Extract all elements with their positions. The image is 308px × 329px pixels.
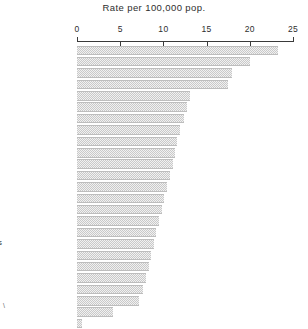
- category-label-text: Finland: [0, 203, 74, 213]
- category-label: Sweden: [0, 260, 74, 270]
- bar-track: [77, 194, 293, 202]
- category-label: Germany, F.R.: [0, 112, 74, 122]
- bar-track: [77, 239, 293, 247]
- category-label-text: New Zealand: [0, 215, 74, 225]
- category-label: Canada: [0, 181, 74, 191]
- bar-track: [77, 251, 293, 259]
- x-tick-0: [77, 37, 78, 42]
- bar: [77, 216, 159, 226]
- x-tick-label-25: 25: [288, 24, 298, 34]
- chart-row: Australia: [0, 283, 308, 294]
- bar-track: [77, 262, 293, 270]
- chart-row: Austria: [0, 67, 308, 78]
- chart-row: U.S., White: [0, 226, 308, 237]
- chart-row: Italy: [0, 101, 308, 112]
- bar-track: [77, 46, 293, 54]
- bar-track: [77, 125, 293, 133]
- bar: [77, 194, 164, 204]
- bar: [77, 91, 190, 101]
- bar: [77, 182, 167, 192]
- chart-row: Germany, F.R.: [0, 112, 308, 123]
- chart-row: Israel: [0, 317, 308, 328]
- category-label-text: Italy: [0, 101, 74, 111]
- bar-track: [77, 137, 293, 145]
- bar: [77, 80, 228, 90]
- bar-track: [77, 80, 293, 88]
- bar: [77, 239, 154, 249]
- bar-track: [77, 114, 293, 122]
- bar: [77, 251, 151, 261]
- chart-row: England & Wales: [0, 238, 308, 249]
- bar-track: [77, 102, 293, 110]
- bar: [77, 296, 139, 306]
- bar-track: [77, 182, 293, 190]
- chart-row: Denmark: [0, 78, 308, 89]
- category-label: Denmark: [0, 78, 74, 88]
- category-label: Netherlands: [0, 249, 74, 259]
- chart-row: Ireland: [0, 306, 308, 317]
- category-label-text: Ireland: [0, 306, 74, 316]
- chart-row: Netherlands: [0, 249, 308, 260]
- category-label-text: Austria: [0, 67, 74, 77]
- bar-track: [77, 216, 293, 224]
- chart-row: Canada: [0, 181, 308, 192]
- x-tick-label-20: 20: [245, 24, 255, 34]
- bar-track: [77, 159, 293, 167]
- category-label-text: South Africa: [0, 124, 74, 134]
- category-label-text: Germany, F.R.: [0, 112, 74, 122]
- bar: [77, 102, 187, 112]
- bar: [77, 148, 175, 158]
- x-tick-label-5: 5: [118, 24, 123, 34]
- category-label: Finland: [0, 203, 74, 213]
- bar-track: [77, 68, 293, 76]
- category-label: Chile: [0, 55, 74, 65]
- x-axis-line: [77, 41, 293, 42]
- category-label: New Zealand: [0, 215, 74, 225]
- category-label: U.S., White: [0, 226, 74, 236]
- category-label-text: U.S., White: [0, 226, 74, 236]
- category-label: Switzerland: [0, 135, 74, 145]
- category-label: France: [0, 169, 74, 179]
- category-label-text: Denmark: [0, 78, 74, 88]
- category-label-text: Sweden: [0, 260, 74, 270]
- corner-mark: \: [3, 302, 5, 309]
- x-tick-label-0: 0: [74, 24, 79, 34]
- category-label-text: Scotland: [0, 192, 74, 202]
- chart-row: Portugal: [0, 147, 308, 158]
- bar-track: [77, 319, 293, 327]
- chart-row: New Zealand: [0, 215, 308, 226]
- bar: [77, 57, 250, 67]
- bar-track: [77, 148, 293, 156]
- chart-rows: U.S., NonwhiteChileAustriaDenmarkJapanIt…: [0, 44, 308, 329]
- x-tick-25: [293, 37, 294, 42]
- category-label: Italy: [0, 101, 74, 111]
- bar: [77, 205, 162, 215]
- category-label-text: Israel: [0, 317, 74, 327]
- category-label-text: Norway: [0, 272, 74, 282]
- bar-track: [77, 307, 293, 315]
- bar-track: [77, 57, 293, 65]
- category-label-text: Chile: [0, 55, 74, 65]
- category-label-text: Portugal: [0, 147, 74, 157]
- bar: [77, 68, 232, 78]
- bar: [77, 228, 156, 238]
- chart-row: South Africa: [0, 124, 308, 135]
- bar-track: [77, 228, 293, 236]
- bar: [77, 159, 173, 169]
- category-label: Austria: [0, 67, 74, 77]
- bar: [77, 307, 113, 317]
- category-label: Australia: [0, 283, 74, 293]
- chart-row: U.S., Nonwhite: [0, 44, 308, 55]
- category-label: U.S., Nonwhite: [0, 44, 74, 54]
- bar: [77, 273, 146, 283]
- bar: [77, 171, 170, 181]
- bar-track: [77, 273, 293, 281]
- category-label-text: North Ireland: [0, 295, 74, 305]
- chart-row: Switzerland: [0, 135, 308, 146]
- bar-track: [77, 91, 293, 99]
- chart-row: North Ireland: [0, 295, 308, 306]
- bar-track: [77, 285, 293, 293]
- category-label: Japan: [0, 90, 74, 100]
- chart-row: France: [0, 169, 308, 180]
